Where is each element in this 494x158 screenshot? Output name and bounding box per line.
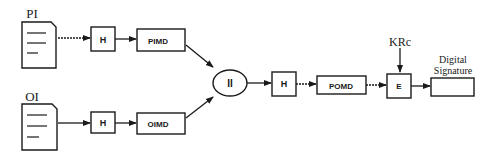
key-label: KRc — [389, 35, 411, 49]
oi-label: OI — [25, 89, 39, 104]
arrow-oimd-to-concat — [186, 97, 213, 118]
pimd-label: PIMD — [148, 37, 168, 46]
arrow-pimd-to-concat — [186, 45, 213, 67]
document-icon — [22, 22, 56, 68]
hash-label: H — [281, 79, 288, 89]
signature-label-line2: Signature — [434, 65, 473, 76]
signature-label-line1: Digital — [439, 54, 467, 65]
oi-document: OI — [22, 89, 57, 150]
pi-document: PI — [22, 6, 56, 68]
document-icon — [22, 104, 57, 150]
dual-signature-diagram: PI OI H PIMD H OIMD II H POMD KRc E Di — [0, 0, 494, 158]
encrypt-label: E — [396, 82, 402, 91]
digital-signature-box — [431, 78, 474, 96]
pi-label: PI — [26, 6, 38, 21]
hash-label: H — [100, 35, 107, 45]
oimd-label: OIMD — [148, 120, 169, 129]
concat-label: II — [227, 78, 233, 89]
pomd-label: POMD — [329, 82, 353, 91]
hash-label: H — [100, 118, 107, 128]
